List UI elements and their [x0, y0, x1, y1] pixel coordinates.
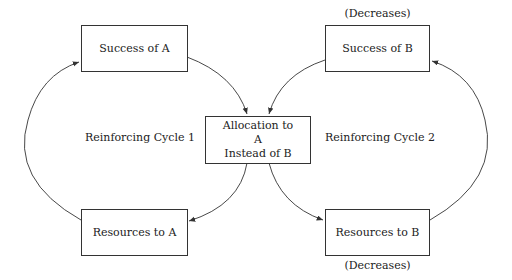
- node-resources-b: Resources to B: [325, 209, 430, 256]
- node-success-b-label: Success of B: [342, 42, 413, 56]
- cycle-1-label: Reinforcing Cycle 1: [80, 131, 200, 144]
- node-resources-a-label: Resources to A: [93, 226, 177, 240]
- diagram-canvas: Success of A Success of B Allocation to …: [0, 0, 512, 280]
- node-resources-a: Resources to A: [81, 209, 188, 256]
- node-success-b: Success of B: [325, 25, 430, 72]
- node-allocation-line3: Instead of B: [224, 147, 291, 161]
- node-success-a: Success of A: [81, 25, 188, 72]
- cycle-2-label: Reinforcing Cycle 2: [320, 131, 440, 144]
- node-allocation-line2: A: [254, 133, 262, 147]
- node-success-a-label: Success of A: [99, 42, 169, 56]
- resources-b-annotation: (Decreases): [325, 259, 430, 272]
- node-allocation: Allocation to A Instead of B: [205, 116, 311, 164]
- success-b-annotation: (Decreases): [325, 7, 430, 20]
- node-allocation-line1: Allocation to: [223, 119, 294, 133]
- node-resources-b-label: Resources to B: [336, 226, 420, 240]
